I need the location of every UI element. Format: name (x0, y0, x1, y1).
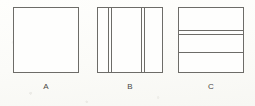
figure-three-squares: A B C (0, 0, 255, 106)
square-b-vertical-line-3 (141, 8, 142, 72)
square-a (13, 7, 79, 73)
square-b-label: B (97, 82, 163, 92)
square-c (178, 7, 244, 73)
square-b-vertical-line-1 (108, 8, 109, 72)
square-c-horizontal-line-1 (179, 30, 243, 31)
square-c-horizontal-line-3 (179, 52, 243, 53)
square-c-horizontal-line-2 (179, 34, 243, 35)
square-b-vertical-line-4 (144, 8, 145, 72)
square-b-vertical-line-2 (111, 8, 112, 72)
square-a-label: A (13, 82, 79, 92)
square-group-a: A (13, 0, 79, 106)
square-group-b: B (97, 0, 163, 106)
square-b (97, 7, 163, 73)
square-c-label: C (178, 82, 244, 92)
square-group-c: C (178, 0, 244, 106)
